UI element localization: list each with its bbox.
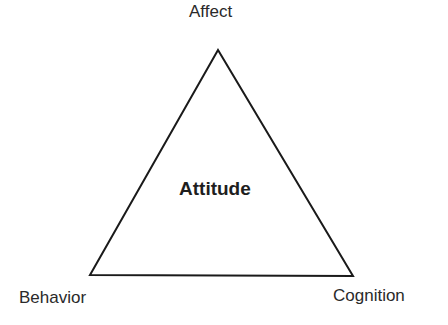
triangle-outline: [90, 50, 353, 276]
attitude-triangle: [0, 0, 448, 325]
center-label-attitude: Attitude: [179, 178, 251, 200]
vertex-label-affect: Affect: [189, 2, 232, 22]
vertex-label-cognition: Cognition: [333, 286, 405, 306]
vertex-label-behavior: Behavior: [19, 288, 86, 308]
